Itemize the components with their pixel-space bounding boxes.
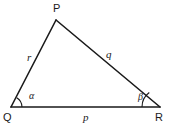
diagram-canvas: α β r q p P Q R (0, 0, 170, 124)
vertex-q-label: Q (3, 111, 12, 123)
angle-beta-label: β (137, 91, 143, 102)
side-q-edge (56, 20, 160, 107)
side-r-label: r (27, 51, 32, 63)
vertex-r-label: R (155, 111, 163, 123)
angle-alpha-arc (17, 98, 22, 107)
side-q-label: q (106, 48, 112, 60)
angle-alpha-label: α (29, 90, 35, 101)
vertex-p-label: P (53, 2, 60, 14)
side-p-label: p (82, 111, 89, 123)
triangle-diagram: α β r q p P Q R (0, 0, 170, 124)
